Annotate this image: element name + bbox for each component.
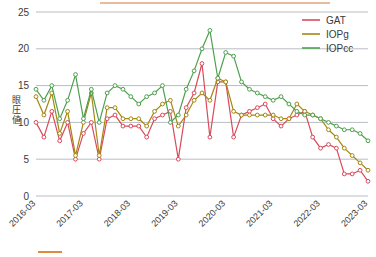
data-point [105,91,109,95]
data-point [121,124,125,128]
data-point [97,154,101,158]
data-point [34,121,38,125]
data-point [168,109,172,113]
data-point [263,95,267,99]
data-point [248,87,252,91]
data-point [311,135,315,139]
data-point [105,106,109,110]
data-point [50,109,54,113]
data-point [208,135,212,139]
svg-text:値: 値 [12,114,21,125]
data-point [184,87,188,91]
data-point [161,113,165,117]
data-point [82,117,86,121]
data-point [129,117,133,121]
data-point [153,117,157,121]
data-point [66,98,70,102]
data-point [358,168,362,172]
data-point [82,132,86,136]
svg-text:眼: 眼 [12,95,21,105]
data-point [145,95,149,99]
data-point [224,80,228,84]
data-point [334,135,338,139]
x-tick-label: 2023-03 [339,198,369,228]
data-point [129,95,133,99]
data-point [208,98,212,102]
data-point [161,102,165,106]
x-tick-label: 2017-03 [54,198,84,228]
data-point [295,102,299,106]
data-point [240,80,244,84]
chart-legend: GATIOPgIOPcc [302,15,353,54]
data-point [184,113,188,117]
data-point [66,109,70,113]
iop-line-chart: 0510152025 眼 圧 値 2016-032017-032018-0320… [0,0,376,257]
data-point [240,113,244,117]
data-point [232,109,236,113]
data-point [97,121,101,125]
data-point [358,132,362,136]
data-point [232,54,236,58]
legend-label-IOPcc: IOPcc [326,43,353,54]
data-point [42,113,46,117]
data-point [287,117,291,121]
data-point [58,139,62,143]
data-point [42,98,46,102]
data-point [153,109,157,113]
data-point [248,113,252,117]
data-point [287,102,291,106]
data-point [271,98,275,102]
y-tick-label: 15 [18,80,30,91]
x-tick-label: 2020-03 [197,198,227,228]
data-point [168,121,172,125]
data-series-layer [34,29,370,184]
x-axis-tick-labels: 2016-032017-032018-032019-032020-032021-… [7,198,369,228]
data-point [295,109,299,113]
data-point [145,124,149,128]
y-tick-label: 25 [18,7,30,18]
data-point [168,98,172,102]
data-point [113,84,117,88]
data-point [129,124,133,128]
x-tick-label: 2021-03 [244,198,274,228]
y-axis-title: 眼 圧 値 [12,95,21,125]
x-tick-label: 2022-03 [292,198,322,228]
x-tick-label: 2016-03 [7,198,37,228]
data-point [58,132,62,136]
data-point [279,124,283,128]
data-point [137,102,141,106]
data-point [327,143,331,147]
data-point [342,172,346,176]
data-point [89,121,93,125]
data-point [200,47,204,51]
data-point [176,124,180,128]
data-point [319,146,323,150]
legend-label-IOPg: IOPg [326,29,349,40]
data-point [263,113,267,117]
data-point [311,113,315,117]
data-point [366,179,370,183]
data-point [176,113,180,117]
data-point [334,146,338,150]
data-point [89,87,93,91]
data-point [327,121,331,125]
data-point [350,172,354,176]
data-point [216,76,220,80]
x-tick-label: 2019-03 [149,198,179,228]
data-point [271,113,275,117]
data-point [342,128,346,132]
data-point [161,84,165,88]
data-point [334,124,338,128]
data-point [34,87,38,91]
legend-label-GAT: GAT [326,15,346,26]
data-point [366,168,370,172]
data-point [255,113,259,117]
data-point [74,73,78,77]
series-IOPg [34,76,370,172]
chart-container: 0510152025 眼 圧 値 2016-032017-032018-0320… [0,0,376,257]
data-point [255,91,259,95]
data-point [192,91,196,95]
data-point [137,117,141,121]
data-point [74,154,78,158]
data-point [121,117,125,121]
